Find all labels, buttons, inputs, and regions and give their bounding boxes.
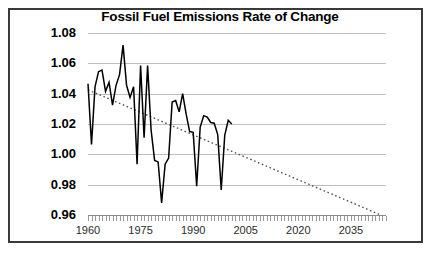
x-axis-label-1990: 1990 [171,224,215,237]
x-axis-tick-labels: 196019751990200520202035 [0,224,433,240]
trendline [88,90,379,214]
y-axis-label-1.00: 1.00 [30,148,76,160]
chart-container: Fossil Fuel Emissions Rate of Change 1.0… [0,0,433,254]
y-axis-label-1.06: 1.06 [30,57,76,69]
x-axis-label-2035: 2035 [329,224,373,237]
y-axis-label-1.02: 1.02 [30,118,76,130]
x-axis-label-2020: 2020 [276,224,320,237]
x-axis-label-1975: 1975 [119,224,163,237]
y-axis-label-1.08: 1.08 [30,27,76,39]
y-axis-tick-labels: 1.081.061.041.021.000.980.96 [24,0,76,254]
y-axis-label-0.98: 0.98 [30,179,76,191]
y-axis-label-1.04: 1.04 [30,88,76,100]
x-axis-label-1960: 1960 [66,224,110,237]
y-axis-label-0.96: 0.96 [30,209,76,221]
x-axis-label-2005: 2005 [224,224,268,237]
